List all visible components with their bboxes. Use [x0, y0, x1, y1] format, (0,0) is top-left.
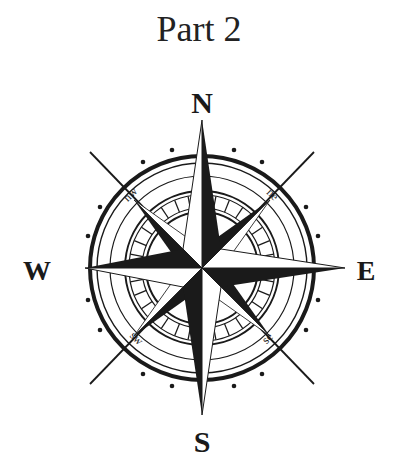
south-label: S [194, 425, 211, 458]
west-label: W [23, 255, 51, 286]
southeast-label: se [259, 330, 276, 347]
north-label: N [191, 86, 213, 119]
east-label: E [357, 255, 376, 286]
compass-rose: N S E W nw ne sw se [0, 0, 398, 469]
